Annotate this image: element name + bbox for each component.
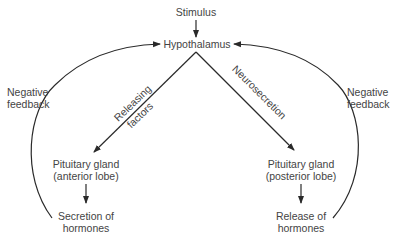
feedback-right-line2: feedback [347, 98, 390, 110]
feedback-right-curve [234, 44, 358, 218]
secretion-line1: Secretion of [58, 210, 114, 222]
stimulus-label: Stimulus [176, 6, 216, 18]
neurosecretion-arrow [196, 52, 294, 150]
anterior-pituitary-line2: (anterior lobe) [53, 170, 118, 182]
feedback-left-line2: feedback [7, 98, 50, 110]
diagram-canvas [0, 0, 396, 239]
feedback-right-line1: Negative [347, 86, 388, 98]
release-line1: Release of [276, 210, 326, 222]
hypothalamus-label: Hypothalamus [163, 38, 230, 50]
posterior-pituitary-line1: Pituitary gland [268, 158, 335, 170]
secretion-line2: hormones [63, 222, 110, 234]
release-line2: hormones [278, 222, 325, 234]
posterior-pituitary-line2: (posterior lobe) [266, 170, 337, 182]
feedback-left-line1: Negative [7, 86, 48, 98]
feedback-left-curve [31, 44, 160, 218]
anterior-pituitary-line1: Pituitary gland [53, 158, 120, 170]
